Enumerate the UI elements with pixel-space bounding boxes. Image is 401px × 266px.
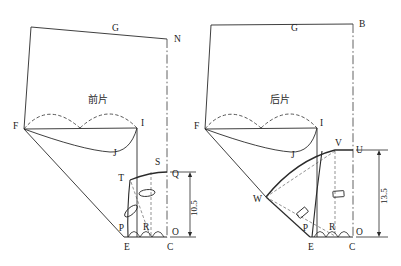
front-line-G-to-F	[24, 27, 31, 129]
back-point-label-U: U	[356, 145, 363, 155]
front-hem-scallop	[128, 232, 164, 238]
pattern-drawing-canvas: G N F I J S T Q P R O E C 前片 10.5	[0, 0, 401, 266]
back-flare-curve-W-V-U	[266, 150, 353, 197]
back-dart-marker-lower	[296, 207, 308, 219]
back-dashed-scallop-left	[205, 114, 261, 129]
front-dart-marker-upper	[139, 189, 156, 197]
front-dashed-scallop-right	[80, 114, 137, 128]
back-dim-arrowhead-top	[377, 150, 381, 155]
back-point-label-V: V	[335, 138, 342, 148]
pattern-svg-root: G N F I J S T Q P R O E C 前片 10.5	[0, 0, 401, 266]
front-point-label-R: R	[143, 222, 150, 232]
back-line-F-to-I	[205, 128, 317, 129]
front-line-F-to-I	[24, 128, 137, 129]
front-point-label-F: F	[13, 121, 18, 131]
front-curve-F-J-I	[24, 128, 137, 152]
front-point-label-O: O	[172, 227, 179, 237]
back-point-label-F: F	[194, 121, 199, 131]
back-point-label-O: O	[356, 227, 363, 237]
back-point-label-J: J	[291, 150, 295, 160]
back-construction-ray-W-to-V	[266, 151, 335, 197]
back-point-label-B: B	[359, 19, 365, 29]
front-dashed-scallop-left	[24, 114, 80, 129]
front-point-label-E: E	[124, 242, 130, 252]
back-dart-marker-upper	[333, 191, 344, 198]
front-point-label-T: T	[118, 173, 124, 183]
front-point-label-S: S	[155, 157, 160, 167]
back-point-label-E: E	[308, 242, 314, 252]
front-point-label-I: I	[141, 118, 144, 128]
front-panel-group: G N F I J S T Q P R O E C 前片 10.5	[13, 23, 199, 252]
back-point-label-P: P	[303, 223, 308, 233]
back-panel-name-label: 后片	[270, 93, 290, 105]
front-point-label-G: G	[112, 23, 119, 33]
back-point-label-G: G	[291, 23, 298, 33]
back-line-G-to-F	[205, 25, 211, 129]
front-point-label-P: P	[119, 223, 124, 233]
back-line-G-to-B	[211, 24, 353, 25]
back-point-label-C: C	[349, 242, 355, 252]
back-curve-F-J-I	[205, 128, 317, 152]
front-dim-arrowhead-bottom	[188, 232, 192, 237]
back-panel-group: G B F I J V U W P R O E C 后片 13.5	[194, 19, 389, 252]
front-line-G-to-N	[31, 27, 167, 39]
back-construction-ray-W-to-R	[266, 197, 335, 236]
back-point-label-R: R	[329, 222, 336, 232]
front-dim-arrowhead-top	[188, 172, 192, 177]
back-dim-arrowhead-bottom	[377, 232, 381, 237]
back-dashed-scallop-right	[261, 114, 317, 128]
back-point-label-W: W	[253, 194, 262, 204]
front-dimension-value: 10.5	[189, 200, 199, 216]
front-point-label-N: N	[174, 34, 181, 44]
front-point-label-J: J	[113, 148, 117, 158]
back-dimension-value: 13.5	[379, 188, 389, 204]
front-waist-curve-T-S-Q	[130, 172, 167, 180]
front-point-label-C: C	[167, 242, 173, 252]
back-point-label-I: I	[320, 118, 323, 128]
front-point-label-Q: Q	[172, 169, 179, 179]
front-panel-name-label: 前片	[88, 93, 108, 105]
